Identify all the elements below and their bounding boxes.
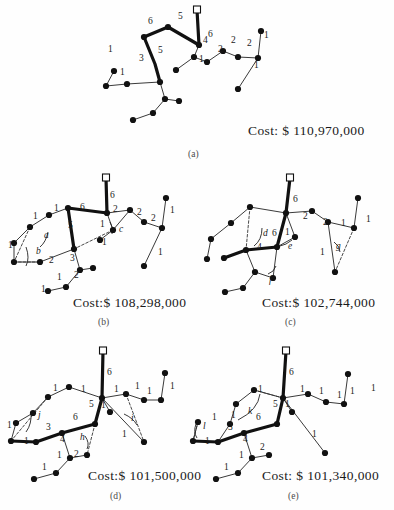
panel-a-node bbox=[162, 96, 168, 102]
panel-c-edge-weight-3: 1 bbox=[285, 227, 290, 237]
panel-e-node bbox=[249, 455, 255, 461]
panel-c-node-label-0: d bbox=[263, 228, 268, 238]
panel-a-edge-weight-11: 2 bbox=[247, 38, 252, 48]
panel-a-edge-9 bbox=[106, 84, 127, 86]
panel-d-terminal-root bbox=[100, 347, 107, 354]
panel-a-edge-weight-5: 1 bbox=[108, 44, 113, 54]
panel-d-edge-weight-14: 2 bbox=[74, 449, 79, 459]
panel-a-node bbox=[176, 98, 182, 104]
panel-c-node bbox=[243, 247, 249, 253]
panel-b-edge-weight-9: 2 bbox=[74, 270, 79, 280]
panel-a-edge-weight-3: 5 bbox=[158, 45, 163, 55]
panel-e-cost-label: Cost: $ 101,340,000 bbox=[262, 468, 379, 483]
panel-c-edge-11 bbox=[246, 250, 255, 272]
panel-d-thick-edge-left bbox=[36, 424, 95, 442]
panel-d-edge-8 bbox=[161, 373, 165, 400]
panel-e-node bbox=[233, 401, 239, 407]
panel-d-node bbox=[66, 384, 72, 390]
panel-a-edge-weight-2: 6 bbox=[148, 16, 153, 26]
panel-a-edge-8 bbox=[127, 82, 160, 84]
panel-e-node bbox=[341, 401, 347, 407]
panel-b-node bbox=[11, 259, 17, 265]
panel-c-edge-weight-2: 6 bbox=[272, 228, 277, 238]
panel-a-edge-weight-4: 3 bbox=[139, 53, 144, 63]
panel-a-edge-weight-12: 1 bbox=[264, 30, 269, 40]
panel-c-trunk-edge bbox=[286, 178, 290, 213]
panel-c-edge-10 bbox=[328, 222, 335, 272]
panel-b-node bbox=[71, 246, 77, 252]
panel-d-node-label-1: i bbox=[131, 413, 134, 423]
panel-e-edge-weight-17: 1 bbox=[224, 462, 229, 472]
panel-c-node bbox=[292, 234, 298, 240]
panel-b-node bbox=[141, 263, 147, 269]
panel-a-edge-12 bbox=[133, 99, 165, 120]
panel-e-edge-weight-4: 1 bbox=[337, 390, 342, 400]
panel-c-edge-9 bbox=[354, 198, 358, 228]
panel-b-node bbox=[159, 225, 165, 231]
panel-d-caption: (d) bbox=[110, 491, 121, 502]
panel-b-edge-weight-14: 2 bbox=[137, 207, 142, 217]
panel-d-edge-weight-12: 1 bbox=[24, 436, 29, 446]
panel-d-edge-weight-1: 1 bbox=[81, 384, 86, 394]
panel-e-edge-weight-14: 4 bbox=[243, 434, 248, 444]
panel-b-cost-label: Cost:$ 108,298,000 bbox=[73, 295, 186, 310]
panel-e-node bbox=[345, 371, 351, 377]
panel-b-node bbox=[110, 227, 116, 233]
panel-b-weight-labels: 661115231212112211 bbox=[8, 190, 175, 294]
panel-e-edge-weight-13: 1 bbox=[205, 436, 210, 446]
panel-a-node bbox=[235, 86, 241, 92]
panel-e-node bbox=[213, 476, 219, 482]
panel-a-edge-weight-13: 1 bbox=[254, 60, 259, 70]
panel-c-edge-4 bbox=[286, 211, 312, 213]
panel-b-node bbox=[46, 212, 52, 218]
panel-e-node bbox=[251, 387, 257, 393]
panel-a-node bbox=[111, 68, 117, 74]
panel-e-node bbox=[215, 439, 221, 445]
panel-e-node bbox=[305, 391, 311, 397]
panel-c-edge-2 bbox=[211, 223, 231, 239]
panel-a: 65653114122211 Cost: $ 110,970,000 (a) bbox=[103, 6, 365, 160]
panel-c-edge-weight-1: 2 bbox=[303, 211, 308, 221]
panel-e-node bbox=[323, 399, 329, 405]
panel-a-node bbox=[124, 81, 130, 87]
panel-b-edge-9 bbox=[107, 210, 130, 213]
panel-a-thick-edge-left bbox=[144, 37, 160, 82]
panel-e-edge-weight-12: 1 bbox=[212, 412, 217, 422]
panel-c-edge-weight-4: 4 bbox=[257, 242, 262, 252]
panel-d-edge-weight-5: 1 bbox=[147, 386, 152, 396]
panel-b-dash-c bbox=[74, 230, 113, 249]
panel-d-edge-weight-2: 1 bbox=[53, 383, 58, 393]
panel-c-edge-weight-5: 2 bbox=[323, 217, 328, 227]
panel-b-edge-weight-4: 1 bbox=[8, 240, 13, 250]
panel-e-terminal-root bbox=[283, 347, 290, 354]
panel-e-trunk-edge bbox=[283, 351, 286, 398]
panel-b-edge-weight-12: 1 bbox=[100, 219, 105, 229]
panel-d-edge-weight-7: 5 bbox=[89, 399, 94, 409]
panel-e-edge-8 bbox=[344, 374, 348, 404]
panel-a-node bbox=[103, 83, 109, 89]
panel-a-trunk-edge bbox=[197, 10, 199, 45]
figure-network-cost-sequence: 65653114122211 Cost: $ 110,970,000 (a) bbox=[0, 0, 394, 510]
panel-e-edge-weight-2: 1 bbox=[300, 384, 305, 394]
panel-e-edge-weight-3: 1 bbox=[319, 386, 324, 396]
panel-e-edge-weight-15: 2 bbox=[260, 442, 265, 452]
panel-c-node bbox=[208, 236, 214, 242]
panel-e-edge-weight-16: 1 bbox=[239, 450, 244, 460]
panel-b-node-label-1: b bbox=[36, 246, 41, 256]
panel-d-dash-h bbox=[87, 424, 95, 455]
panel-d-node-label-2: j bbox=[36, 410, 41, 420]
panel-b-node bbox=[45, 288, 51, 294]
panel-b-arc-b bbox=[26, 247, 28, 266]
panel-c-edge-weight-6: 1 bbox=[341, 218, 346, 228]
panel-a-node bbox=[235, 54, 241, 60]
panel-e-edge-weight-1: 1 bbox=[258, 384, 263, 394]
panel-e-weight-labels: 6111111516131142111 bbox=[205, 367, 376, 472]
panel-e-thick-edge-down bbox=[277, 398, 283, 424]
panel-b-node bbox=[90, 265, 96, 271]
panel-e-node bbox=[235, 470, 241, 476]
panel-a-edge-weight-7: 4 bbox=[203, 35, 208, 45]
panel-d-node bbox=[13, 420, 19, 426]
panel-b-edge-weight-3: 1 bbox=[33, 211, 38, 221]
panel-a-node bbox=[157, 79, 163, 85]
panel-d-edge-13 bbox=[34, 458, 70, 479]
